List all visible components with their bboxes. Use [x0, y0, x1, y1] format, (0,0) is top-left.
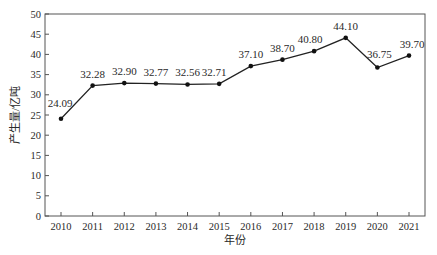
data-label: 39.70	[400, 38, 425, 50]
line-chart: 05101520253035404550 2010201120122013201…	[0, 0, 437, 255]
data-label: 32.71	[202, 66, 227, 78]
data-label: 40.80	[298, 33, 323, 45]
data-point	[280, 57, 285, 62]
y-tick-label: 25	[31, 110, 42, 121]
x-tick-label: 2013	[145, 221, 166, 232]
data-point	[122, 81, 127, 86]
y-tick-label: 10	[31, 170, 42, 181]
y-axis-title: 产生量/亿吨	[8, 86, 21, 144]
data-line	[61, 38, 409, 119]
x-tick-label: 2021	[399, 221, 420, 232]
data-label: 36.75	[367, 48, 392, 60]
y-tick-label: 0	[36, 211, 41, 222]
y-tick-label: 40	[31, 49, 42, 60]
y-tick-label: 35	[31, 69, 42, 80]
y-tick-label: 50	[31, 9, 42, 20]
data-point	[90, 83, 95, 88]
x-tick-label: 2015	[209, 221, 230, 232]
data-label: 32.56	[175, 66, 200, 78]
data-label: 44.10	[333, 20, 358, 32]
x-tick-label: 2019	[335, 221, 356, 232]
data-point	[407, 53, 412, 58]
x-tick-label: 2020	[367, 221, 388, 232]
data-label: 37.10	[238, 48, 263, 60]
chart-canvas: 05101520253035404550 2010201120122013201…	[0, 0, 437, 255]
x-tick-label: 2016	[240, 221, 261, 232]
data-label: 32.77	[144, 66, 169, 78]
data-label: 24.09	[48, 97, 73, 109]
y-tick-label: 30	[31, 89, 42, 100]
data-point	[59, 116, 64, 121]
y-tick-label: 5	[36, 190, 41, 201]
plot-frame	[45, 14, 425, 216]
data-point	[154, 81, 159, 86]
y-tick-label: 45	[31, 29, 42, 40]
x-tick-label: 2012	[114, 221, 135, 232]
data-point	[185, 82, 190, 87]
x-tick-label: 2017	[272, 221, 293, 232]
x-tick-label: 2014	[177, 221, 199, 232]
data-label: 32.28	[80, 68, 105, 80]
data-point	[375, 65, 380, 70]
data-markers	[59, 36, 412, 121]
y-tick-label: 20	[31, 130, 42, 141]
x-tick-label: 2010	[51, 221, 72, 232]
data-point	[249, 64, 254, 69]
data-point	[312, 49, 317, 54]
data-point	[217, 82, 222, 87]
data-label: 38.70	[270, 42, 295, 54]
x-axis-title: 年份	[224, 233, 246, 246]
data-labels: 24.0932.2832.9032.7732.5632.7137.1038.70…	[48, 20, 425, 109]
data-label: 32.90	[112, 65, 137, 77]
x-axis: 2010201120122013201420152016201720182019…	[51, 212, 420, 232]
x-tick-label: 2018	[304, 221, 325, 232]
y-tick-label: 15	[31, 150, 42, 161]
x-tick-label: 2011	[82, 221, 103, 232]
y-axis: 05101520253035404550	[31, 9, 50, 222]
data-point	[343, 36, 348, 41]
